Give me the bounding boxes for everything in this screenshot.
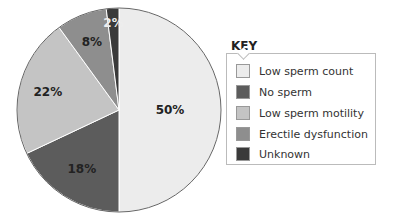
slice-label: 2%	[103, 16, 123, 30]
legend-item-unknown: Unknown	[236, 146, 310, 162]
slice-label: 8%	[82, 35, 102, 49]
legend-item-erectile-dysfunction: Erectile dysfunction	[236, 126, 368, 142]
swatch-icon	[236, 127, 250, 141]
swatch-icon	[236, 64, 250, 78]
slice-label: 22%	[34, 85, 63, 99]
swatch-icon	[236, 147, 250, 161]
swatch-icon	[236, 106, 250, 120]
legend: Low sperm count No sperm Low sperm motil…	[226, 53, 376, 165]
legend-item-no-sperm: No sperm	[236, 84, 312, 100]
pie-chart: 50%18%22%8%2%	[0, 0, 230, 224]
slice-label: 50%	[156, 103, 185, 117]
swatch-icon	[236, 85, 250, 99]
legend-item-low-sperm-count: Low sperm count	[236, 63, 353, 79]
slice-label: 18%	[67, 162, 96, 176]
legend-item-low-sperm-motility: Low sperm motility	[236, 105, 364, 121]
